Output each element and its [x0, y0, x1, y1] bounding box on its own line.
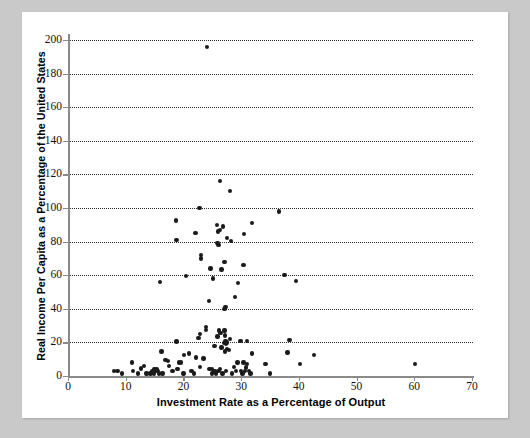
x-tick-label-70: 70: [452, 380, 492, 392]
data-point: [199, 256, 203, 260]
data-point: [215, 223, 219, 227]
data-point: [136, 371, 140, 375]
data-point: [175, 367, 179, 371]
gridline-y-180: [69, 74, 473, 75]
data-point: [250, 351, 254, 355]
data-point: [214, 371, 218, 375]
data-point: [184, 274, 188, 278]
x-tick-label-50: 50: [337, 380, 377, 392]
data-point: [139, 366, 143, 370]
data-point: [238, 339, 242, 343]
gridline-y-120: [69, 174, 473, 175]
data-point: [413, 362, 417, 366]
x-tick-label-10: 10: [106, 380, 146, 392]
data-point: [201, 356, 205, 360]
data-point: [158, 280, 162, 284]
data-point: [287, 338, 291, 342]
y-axis-title: Real Income Per Capita as a Percentage o…: [35, 41, 47, 371]
gridline-y-40: [69, 309, 473, 310]
data-point: [223, 333, 227, 337]
data-point: [194, 355, 198, 359]
y-tick-20: [63, 342, 68, 343]
y-tick-180: [63, 74, 68, 75]
y-tick-160: [63, 107, 68, 108]
data-point: [227, 348, 231, 352]
y-tick-120: [63, 174, 68, 175]
gridline-y-20: [69, 342, 473, 343]
data-point: [220, 371, 224, 375]
data-point: [196, 336, 200, 340]
gridline-y-160: [69, 107, 473, 108]
y-axis-line: [68, 34, 70, 376]
data-point: [241, 263, 245, 267]
data-point: [263, 362, 267, 366]
data-point: [222, 260, 226, 264]
x-tick-label-40: 40: [279, 380, 319, 392]
data-point: [219, 267, 223, 271]
data-point: [233, 295, 237, 299]
y-tick-40: [63, 309, 68, 310]
gridline-y-100: [69, 208, 473, 209]
data-point: [222, 307, 226, 311]
data-point: [131, 369, 135, 373]
data-point: [197, 206, 201, 210]
data-point: [218, 179, 222, 183]
y-tick-60: [63, 275, 68, 276]
data-point: [282, 273, 286, 277]
data-point: [228, 189, 232, 193]
x-tick-label-30: 30: [221, 380, 261, 392]
data-point: [229, 239, 233, 243]
y-tick-80: [63, 242, 68, 243]
x-axis-line: [68, 376, 474, 378]
y-tick-100: [63, 208, 68, 209]
y-tick-200: [63, 40, 68, 41]
data-point: [215, 334, 219, 338]
data-point: [208, 266, 212, 270]
data-point: [285, 350, 289, 354]
data-point: [181, 371, 185, 375]
gridline-y-200: [69, 40, 473, 41]
data-point: [277, 209, 281, 213]
data-point: [240, 371, 244, 375]
data-point: [205, 45, 209, 49]
data-point: [167, 364, 171, 368]
data-point: [294, 279, 298, 283]
data-point: [212, 344, 216, 348]
data-point: [211, 276, 215, 280]
data-point: [130, 360, 134, 364]
data-point: [174, 218, 178, 222]
data-point: [182, 353, 186, 357]
data-point: [216, 229, 220, 233]
data-point: [152, 371, 156, 375]
data-point: [204, 328, 208, 332]
data-point: [268, 371, 272, 375]
data-point: [174, 339, 178, 343]
data-point: [234, 369, 238, 373]
data-point: [166, 359, 170, 363]
data-point: [192, 371, 196, 375]
x-tick-label-20: 20: [163, 380, 203, 392]
data-point: [224, 342, 228, 346]
data-point: [216, 243, 220, 247]
gridline-y-140: [69, 141, 473, 142]
data-point: [207, 299, 211, 303]
data-point: [242, 232, 246, 236]
data-point: [298, 362, 302, 366]
y-tick-140: [63, 141, 68, 142]
gridline-y-80: [69, 242, 473, 243]
data-point: [187, 351, 191, 355]
data-point: [174, 238, 178, 242]
data-point: [198, 365, 202, 369]
data-point: [120, 371, 124, 375]
x-tick-label-60: 60: [394, 380, 434, 392]
data-point: [179, 360, 183, 364]
data-point: [159, 349, 163, 353]
data-point: [312, 353, 316, 357]
data-point: [235, 360, 239, 364]
data-point: [193, 231, 197, 235]
data-point: [250, 221, 254, 225]
gridline-y-60: [69, 275, 473, 276]
scatter-plot: 010203040506070 020406080100120140160180…: [0, 0, 530, 438]
y-tick-0: [63, 376, 68, 377]
data-point: [248, 371, 252, 375]
